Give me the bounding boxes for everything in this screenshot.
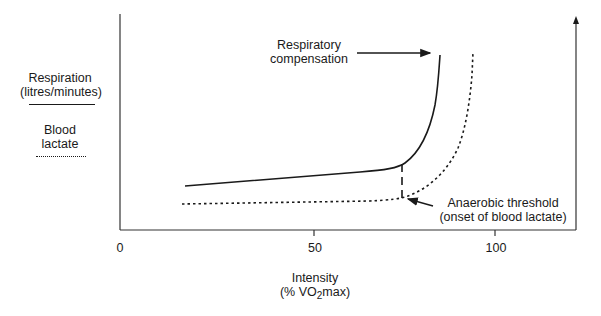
anaerobic-threshold-line2: (onset of blood lactate)	[433, 210, 573, 224]
anaerobic-threshold-line1: Anaerobic threshold	[433, 196, 573, 210]
legend-respiration-line2: (litres/minutes)	[20, 85, 100, 99]
x-axis-label-line2: (% V˙O2max)	[250, 285, 380, 303]
up-arrow-icon	[573, 16, 579, 24]
legend-blood-lactate-line2: lactate	[20, 137, 100, 151]
v-dot-symbol: V˙	[299, 285, 307, 299]
legend-respiration-swatch	[29, 104, 95, 105]
legend-blood-lactate-swatch	[36, 156, 86, 157]
x-tick-label-50: 50	[308, 241, 322, 255]
anaerobic-threshold-label: Anaerobic threshold (onset of blood lact…	[433, 196, 573, 224]
dot-accent-icon: ˙	[302, 278, 305, 292]
legend-blood-lactate-label: Blood lactate	[20, 123, 100, 151]
legend-respiration-label: Respiration (litres/minutes)	[20, 71, 100, 99]
x-axis-label-prefix: (%	[280, 285, 299, 299]
x-axis-label: Intensity (% V˙O2max)	[250, 271, 380, 303]
x-tick-label-100: 100	[486, 241, 507, 255]
legend-respiration-line1: Respiration	[20, 71, 100, 85]
respiratory-compensation-line2: compensation	[264, 52, 354, 66]
respiratory-compensation-label: Respiratory compensation	[264, 38, 354, 66]
x-axis-label-suffix: max)	[322, 285, 350, 299]
anaerobic-threshold-arrow	[408, 199, 433, 206]
respiratory-compensation-line1: Respiratory	[264, 38, 354, 52]
x-axis-label-line1: Intensity	[250, 271, 380, 285]
x-tick-label-0: 0	[117, 241, 124, 255]
x-axis-label-o: O	[307, 285, 317, 299]
legend-blood-lactate-line1: Blood	[20, 123, 100, 137]
